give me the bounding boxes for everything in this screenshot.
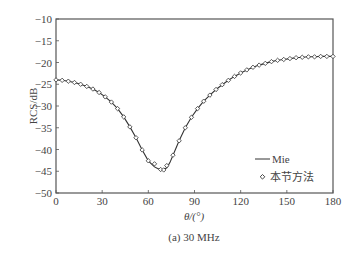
diamond-marker <box>171 153 175 157</box>
x-tick-label: 150 <box>279 195 296 207</box>
legend: Mie 本节方法 <box>255 153 314 183</box>
x-tick-label: 180 <box>325 195 342 207</box>
diamond-marker <box>238 71 242 75</box>
y-tick-label: −20 <box>35 57 53 69</box>
y-axis-label: RCS/dB <box>27 88 39 125</box>
x-tick-label: 120 <box>232 195 249 207</box>
diamond-marker <box>275 58 279 62</box>
diamond-marker <box>251 65 255 69</box>
plot-frame <box>56 19 333 193</box>
diamond-marker <box>282 57 286 61</box>
y-tick-label: −40 <box>35 144 53 156</box>
y-tick-label: −50 <box>35 187 53 199</box>
diamond-marker <box>140 148 144 152</box>
diamond-marker <box>331 54 335 58</box>
diamond-marker <box>91 87 95 91</box>
diamond-marker <box>300 55 304 59</box>
x-axis-label: θ/(°) <box>184 210 205 223</box>
diamond-marker <box>245 68 249 72</box>
diamond-marker <box>318 54 322 58</box>
diamond-marker <box>134 136 138 140</box>
x-tick-label: 90 <box>189 195 201 207</box>
plot-area-border <box>56 19 333 193</box>
diamond-marker <box>269 59 273 63</box>
legend-label-method: 本节方法 <box>270 170 314 183</box>
diamond-marker <box>306 55 310 59</box>
diamond-marker <box>72 80 76 84</box>
diamond-marker <box>312 55 316 59</box>
x-tick-label: 60 <box>143 195 155 207</box>
diamond-marker <box>177 139 181 143</box>
diamond-marker <box>54 78 58 82</box>
diamond-marker <box>165 163 169 167</box>
diamond-marker <box>78 82 82 86</box>
mie-curve <box>56 56 333 169</box>
x-tick-label: 0 <box>53 195 59 207</box>
legend-label-mie: Mie <box>272 153 290 165</box>
diamond-marker <box>60 78 64 82</box>
diamond-marker <box>85 84 89 88</box>
diamond-marker <box>257 63 261 67</box>
diamond-marker <box>288 56 292 60</box>
legend-diamond-icon <box>260 175 265 180</box>
diamond-marker <box>294 56 298 60</box>
figure-caption: (a) 30 MHz <box>168 231 219 244</box>
diamond-marker <box>263 61 267 65</box>
y-tick-label: −45 <box>35 165 53 177</box>
x-tick-label: 30 <box>97 195 109 207</box>
y-tick-label: −15 <box>35 35 53 47</box>
diamond-marker <box>325 54 329 58</box>
y-tick-label: −10 <box>35 13 53 25</box>
mie-series-line <box>56 56 333 169</box>
diamond-marker <box>66 79 70 83</box>
rcs-chart: −10−15−20−25−30−35−40−45−50 030609012015… <box>0 0 357 255</box>
